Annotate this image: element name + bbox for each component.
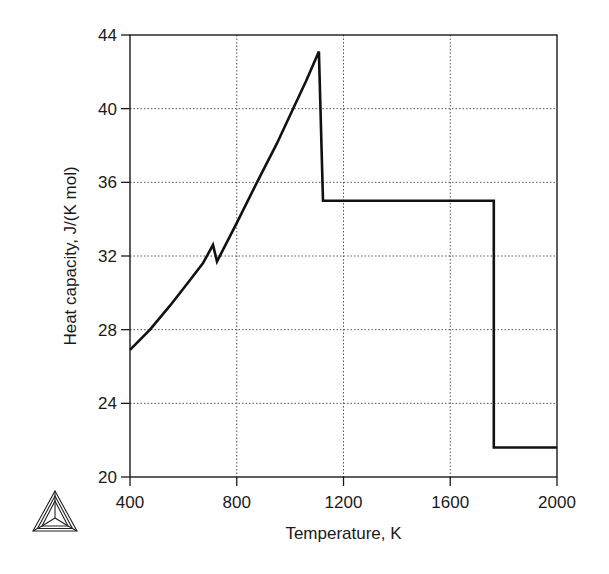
y-tick-label: 36 (98, 173, 117, 192)
x-tick-label: 1600 (431, 493, 469, 512)
x-axis-ticks: 400800120016002000 (116, 477, 576, 512)
heat-capacity-chart: 400800120016002000 20242832364044 Temper… (0, 0, 609, 574)
y-tick-label: 20 (98, 468, 117, 487)
y-axis-title: Heat capacity, J/(K mol) (61, 166, 80, 345)
x-tick-label: 1200 (325, 493, 363, 512)
x-tick-label: 2000 (538, 493, 576, 512)
y-tick-label: 44 (98, 26, 117, 45)
y-tick-label: 24 (98, 394, 117, 413)
x-axis-title: Temperature, K (285, 524, 402, 543)
thermo-calc-logo-icon (33, 491, 77, 531)
y-tick-label: 28 (98, 321, 117, 340)
y-axis-ticks: 20242832364044 (98, 26, 130, 487)
y-tick-label: 40 (98, 100, 117, 119)
y-tick-label: 32 (98, 247, 117, 266)
x-tick-label: 400 (116, 493, 144, 512)
x-tick-label: 800 (223, 493, 251, 512)
